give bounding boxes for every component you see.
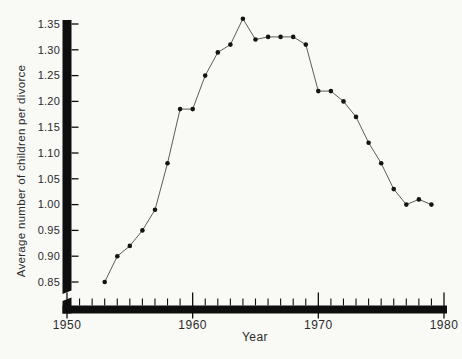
- x-tick-label: 1950: [53, 318, 82, 332]
- data-point: [216, 50, 221, 55]
- data-point: [140, 228, 145, 233]
- y-tick-label: 0.95: [38, 224, 60, 236]
- data-point: [316, 89, 321, 94]
- data-point: [203, 73, 208, 78]
- y-axis-title: Average number of children per divorce: [15, 65, 27, 278]
- y-tick-label: 1.05: [38, 173, 60, 185]
- y-tick-label: 1.00: [38, 198, 60, 210]
- data-point: [190, 107, 195, 112]
- data-point: [354, 115, 359, 120]
- y-tick-label: 0.90: [38, 250, 60, 262]
- data-point: [404, 202, 409, 207]
- data-point: [128, 244, 133, 249]
- chart-canvas: Average number of children per divorce Y…: [0, 0, 462, 359]
- data-point: [278, 35, 283, 40]
- data-point: [153, 208, 158, 213]
- data-point: [291, 35, 296, 40]
- data-point: [417, 197, 422, 202]
- data-point: [241, 17, 246, 22]
- y-tick-label: 1.25: [38, 69, 60, 81]
- divorce-children-line-chart: Average number of children per divorce Y…: [0, 0, 462, 359]
- data-point: [115, 254, 120, 259]
- data-point: [228, 42, 233, 47]
- data-point: [329, 89, 334, 94]
- y-tick-label: 1.35: [38, 18, 60, 30]
- data-point: [391, 187, 396, 192]
- data-point: [266, 35, 271, 40]
- y-tick-label: 1.15: [38, 121, 60, 133]
- x-axis-bar: [63, 306, 448, 314]
- x-tick-label: 1970: [304, 318, 333, 332]
- data-point: [165, 161, 170, 166]
- data-point: [178, 107, 183, 112]
- x-tick-label: 1980: [430, 318, 459, 332]
- data-point: [379, 161, 384, 166]
- y-tick-label: 1.30: [38, 44, 60, 56]
- y-tick-label: 1.20: [38, 95, 60, 107]
- data-line: [105, 19, 432, 282]
- data-point: [429, 202, 434, 207]
- data-point: [102, 280, 107, 285]
- x-axis-title: Year: [242, 330, 268, 344]
- x-tick-label: 1960: [178, 318, 207, 332]
- data-point: [341, 99, 346, 104]
- data-point: [253, 37, 258, 42]
- data-point: [366, 140, 371, 145]
- y-tick-label: 1.10: [38, 147, 60, 159]
- y-tick-label: 0.85: [38, 276, 60, 288]
- y-axis-bar: [63, 20, 72, 294]
- data-point: [304, 42, 309, 47]
